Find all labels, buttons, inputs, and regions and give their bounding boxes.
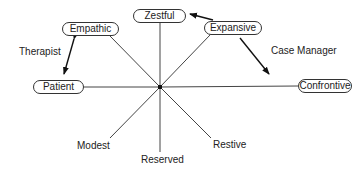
node-patient: Patient (33, 80, 84, 94)
role-case-manager: Case Manager (271, 45, 337, 57)
node-confrontive: Confrontive (298, 79, 352, 93)
node-restive: Restive (213, 139, 246, 151)
center-point (158, 85, 162, 89)
role-therapist: Therapist (19, 46, 61, 58)
node-reserved: Reserved (141, 154, 184, 166)
node-zestful: Zestful (133, 9, 186, 23)
node-empathic: Empathic (62, 22, 119, 36)
node-expansive: Expansive (204, 21, 262, 35)
node-modest: Modest (77, 140, 110, 152)
